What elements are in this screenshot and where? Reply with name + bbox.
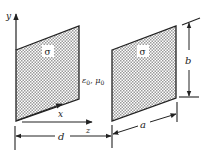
z-axis-label: z: [85, 126, 91, 135]
width-label: a: [140, 119, 146, 130]
right-plate-sigma-label: σ: [140, 47, 146, 57]
height-label: b: [185, 55, 191, 66]
plates-diagram: y σ σ ε0, μ0 x z d: [0, 0, 208, 151]
separation-label: d: [58, 131, 64, 142]
left-plate-sigma-label: σ: [45, 47, 51, 57]
diagram-canvas: y σ σ ε0, μ0 x z d: [0, 0, 208, 151]
left-plate: [16, 26, 79, 121]
y-axis-label: y: [5, 11, 12, 21]
medium-label: ε0, μ0: [82, 76, 104, 86]
mu-subscript: 0: [100, 79, 104, 86]
right-plate: [112, 26, 176, 121]
x-axis-label: x: [58, 109, 63, 119]
